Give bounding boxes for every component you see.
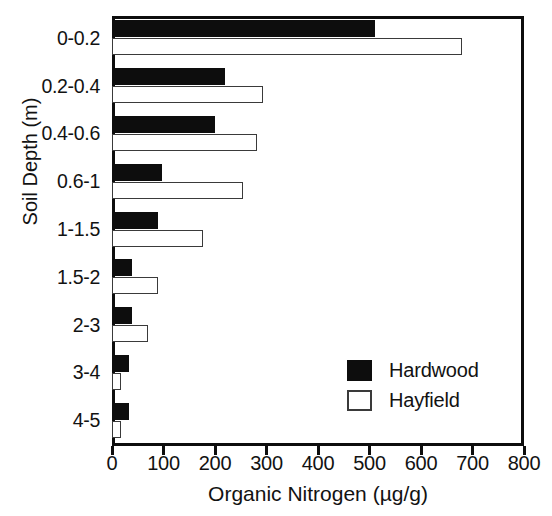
x-tick-label-800: 800 [508, 452, 540, 475]
bar-hayfield-0.2-0.4 [112, 86, 263, 103]
legend-item-hardwood: Hardwood [347, 355, 479, 385]
bar-hayfield-2-3 [112, 325, 148, 342]
y-tick-label-0.6-1: 0.6-1 [57, 170, 100, 193]
bar-hayfield-0.6-1 [112, 182, 243, 199]
y-tick-label-1.5-2: 1.5-2 [57, 265, 100, 288]
y-tick-label-0.4-0.6: 0.4-0.6 [41, 122, 100, 145]
x-tick-label-400: 400 [302, 452, 334, 475]
x-axis-title: Organic Nitrogen (µg/g) [112, 482, 524, 506]
y-tick-label-0-0.2: 0-0.2 [57, 26, 100, 49]
x-tick-label-100: 100 [147, 452, 179, 475]
x-tick-label-700: 700 [456, 452, 488, 475]
y-axis-title: Soil Depth (m) [19, 52, 42, 272]
x-tick-label-600: 600 [405, 452, 437, 475]
organic-nitrogen-by-soil-depth-chart: 0100200300400500600700800 0-0.20.2-0.40.… [0, 0, 552, 516]
y-axis-tick-labels: 0-0.20.2-0.40.4-0.60.6-11-1.51.5-22-33-4… [0, 16, 106, 446]
x-tick-label-200: 200 [199, 452, 231, 475]
y-tick-label-3-4: 3-4 [73, 361, 100, 384]
y-tick-label-2-3: 2-3 [73, 313, 100, 336]
bar-hardwood-2-3 [112, 307, 132, 324]
legend-label-hayfield: Hayfield [389, 389, 460, 412]
x-tick-label-0: 0 [107, 452, 118, 475]
bar-hardwood-4-5 [112, 403, 129, 420]
legend-swatch-hardwood-icon [347, 360, 372, 381]
bar-hardwood-1.5-2 [112, 259, 132, 276]
bar-hayfield-0.4-0.6 [112, 134, 257, 151]
x-tick-label-300: 300 [250, 452, 282, 475]
bar-hardwood-0.6-1 [112, 164, 162, 181]
bar-hardwood-0.4-0.6 [112, 116, 215, 133]
y-tick-label-1-1.5: 1-1.5 [57, 218, 100, 241]
legend-item-hayfield: Hayfield [347, 385, 479, 415]
y-tick-label-0.2-0.4: 0.2-0.4 [41, 74, 100, 97]
bar-hayfield-1.5-2 [112, 277, 158, 294]
y-tick-label-4-5: 4-5 [73, 409, 100, 432]
x-tick-label-500: 500 [353, 452, 385, 475]
bar-hayfield-3-4 [112, 373, 121, 390]
legend-label-hardwood: Hardwood [389, 359, 479, 382]
bar-hayfield-0-0.2 [112, 38, 462, 55]
bar-hayfield-4-5 [112, 421, 121, 438]
bar-hardwood-1-1.5 [112, 212, 158, 229]
bar-hardwood-0-0.2 [112, 20, 375, 37]
bar-hardwood-3-4 [112, 355, 129, 372]
x-axis-tick-labels: 0100200300400500600700800 [112, 452, 524, 476]
chart-legend: Hardwood Hayfield [347, 355, 479, 415]
bar-hardwood-0.2-0.4 [112, 68, 225, 85]
bar-hayfield-1-1.5 [112, 230, 203, 247]
legend-swatch-hayfield-icon [347, 390, 372, 411]
